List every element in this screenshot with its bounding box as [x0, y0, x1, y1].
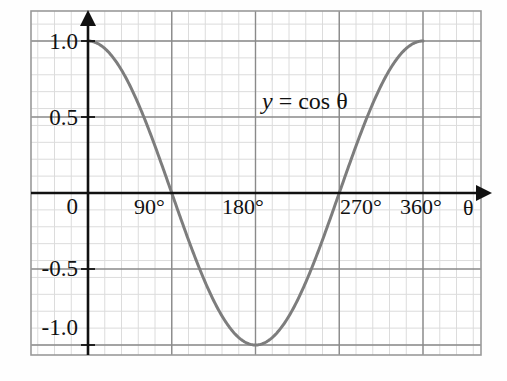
figure-container: 1.0 0.5 0 -0.5 -1.0 90° 180° 270° 360° θ…	[0, 0, 507, 381]
x-tick-label-270: 270°	[340, 194, 382, 220]
x-tick-label-360: 360°	[400, 194, 442, 220]
equation-expression: = cos θ	[273, 88, 348, 114]
x-tick-label-180: 180°	[222, 194, 264, 220]
y-tick-label-0.5: 0.5	[26, 105, 78, 131]
y-tick-label-0: 0	[42, 194, 78, 220]
y-tick-label-1.0: 1.0	[26, 29, 78, 55]
x-tick-label-90: 90°	[134, 194, 165, 220]
right-arrow-icon	[476, 185, 492, 201]
x-axis-variable-label: θ	[463, 195, 474, 221]
equation-variable: y	[262, 88, 273, 114]
equation-annotation: y = cos θ	[262, 88, 348, 115]
y-tick-label-neg0.5: -0.5	[20, 256, 78, 282]
y-tick-label-neg1.0: -1.0	[20, 315, 78, 341]
